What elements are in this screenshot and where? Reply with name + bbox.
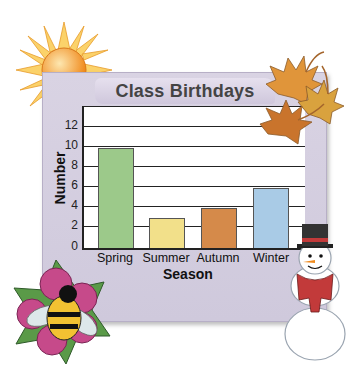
- bar-autumn: [201, 208, 237, 248]
- xtick-autumn: Autumn: [188, 251, 248, 265]
- bee-on-flower-icon: [6, 258, 116, 368]
- y-axis-label: Number: [52, 148, 68, 208]
- snowman-icon: [275, 216, 355, 366]
- maple-leaves-icon: [258, 44, 348, 164]
- xtick-summer: Summer: [136, 251, 196, 265]
- title-banner: Class Birthdays: [95, 78, 275, 104]
- bar-spring: [98, 148, 134, 248]
- chart-title: Class Birthdays: [115, 81, 254, 102]
- ytick-0: 0: [58, 239, 78, 253]
- x-axis-label: Season: [163, 266, 213, 282]
- ytick-12: 12: [58, 118, 78, 132]
- bar-summer: [149, 218, 185, 248]
- ytick-2: 2: [58, 218, 78, 232]
